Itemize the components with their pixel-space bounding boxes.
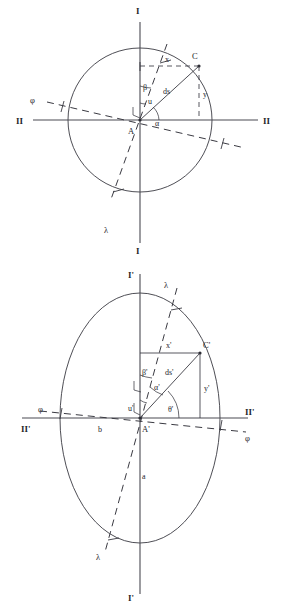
upper-axis-right-label: II <box>263 116 271 126</box>
upper-point-A-label: A <box>128 126 135 136</box>
lower-angle-alpha-label: α' <box>154 383 160 392</box>
upper-axis-top-label: I <box>136 6 140 16</box>
lower-lambda-label-top: λ <box>164 280 169 290</box>
upper-phi-label-left: φ <box>30 95 35 105</box>
lower-point-A-label: A' <box>142 424 150 434</box>
projection-geometry-figure: I I II II β u α ds x y C A λ φ <box>0 0 284 612</box>
upper-y-projection-label: y <box>203 90 207 99</box>
lambda-tick-bottom-prime <box>108 538 119 540</box>
lower-phi-label-right: φ <box>245 433 250 443</box>
upper-x-projection-label: x <box>165 55 169 64</box>
lower-axis-top-label: I' <box>128 270 134 280</box>
lower-angle-u-label: u' <box>128 404 134 413</box>
lower-angle-theta-label: θ' <box>168 405 174 414</box>
lower-ellipse-diagram: I' I' II' II' β' α' u' θ' ds' x' y' C' A… <box>21 270 255 603</box>
lower-axis-left-label: II' <box>21 424 31 434</box>
upper-circle-diagram: I I II II β u α ds x y C A λ φ <box>16 6 271 256</box>
point-C-prime-marker <box>198 351 201 354</box>
angle-u-bracket <box>133 107 140 118</box>
lower-y-projection-label: y' <box>204 384 210 393</box>
lower-lambda-label-bottom: λ <box>96 552 101 562</box>
upper-lambda-label-bottom: λ <box>104 225 109 235</box>
lower-point-C-label: C' <box>203 340 211 350</box>
lower-axis-bottom-label: I' <box>128 593 134 603</box>
lower-semi-axis-b-label: b <box>98 425 102 434</box>
lower-phi-label-left: φ <box>38 404 43 414</box>
lower-radius-ds-label: ds' <box>165 368 174 377</box>
lower-semi-axis-a-label: a <box>142 472 146 481</box>
point-A-prime-marker <box>138 416 141 419</box>
angle-u-prime-arc <box>140 400 147 403</box>
point-C-marker <box>197 64 200 67</box>
phi-axis-line <box>47 102 245 148</box>
lower-x-projection-label: x' <box>166 341 172 350</box>
upper-axis-bottom-label: I <box>136 246 140 256</box>
point-A-marker <box>138 118 141 121</box>
angle-u-prime-bracket <box>134 403 140 415</box>
upper-axis-left-label: II <box>16 116 24 126</box>
upper-point-C-label: C <box>192 51 198 61</box>
lambda-axis-line-prime <box>105 288 177 552</box>
lower-angle-beta-label: β' <box>142 368 148 377</box>
upper-angle-u-label: u <box>148 97 152 106</box>
upper-angle-beta-label: β <box>143 83 147 92</box>
lower-axis-right-label: II' <box>245 407 255 417</box>
phi-tick-left <box>61 101 64 112</box>
upper-radius-ds-label: ds <box>163 87 170 96</box>
lambda-tick-bottom <box>113 189 124 192</box>
